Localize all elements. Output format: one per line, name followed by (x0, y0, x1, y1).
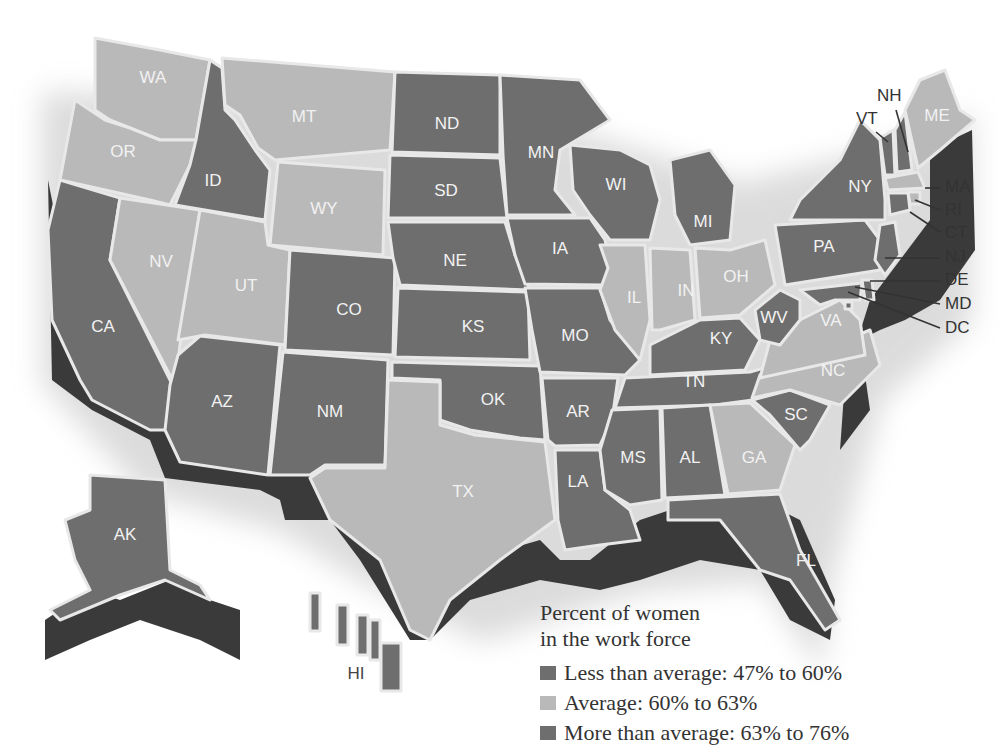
us-state-map: WA OR CA ID MT WY NV UT AZ CO NM ND SD N… (0, 0, 1002, 753)
svg-text:SD: SD (434, 181, 458, 200)
svg-text:KS: KS (462, 317, 485, 336)
svg-text:ND: ND (435, 114, 460, 133)
svg-text:RI: RI (945, 200, 962, 219)
svg-text:OR: OR (110, 142, 136, 161)
svg-text:MI: MI (694, 212, 713, 231)
svg-text:MD: MD (945, 294, 971, 313)
svg-text:IL: IL (627, 288, 641, 307)
svg-text:WA: WA (140, 68, 167, 87)
svg-text:NJ: NJ (945, 247, 966, 266)
svg-text:CA: CA (91, 317, 115, 336)
svg-text:CO: CO (336, 300, 362, 319)
svg-text:MO: MO (561, 326, 588, 345)
svg-text:LA: LA (568, 472, 589, 491)
svg-text:VT: VT (856, 109, 878, 128)
svg-text:DC: DC (945, 318, 970, 337)
legend-item-less-than-average: Less than average: 47% to 60% (540, 658, 849, 688)
svg-text:IN: IN (678, 281, 695, 300)
svg-text:NH: NH (877, 86, 902, 105)
state-CT[interactable] (888, 193, 910, 215)
svg-text:VA: VA (820, 311, 842, 330)
svg-text:NM: NM (317, 402, 343, 421)
svg-text:OK: OK (481, 390, 506, 409)
svg-text:MT: MT (292, 107, 317, 126)
legend-swatch-icon (540, 726, 556, 740)
svg-text:OH: OH (723, 267, 749, 286)
svg-text:AZ: AZ (211, 392, 233, 411)
svg-text:WV: WV (760, 308, 788, 327)
svg-text:AL: AL (680, 448, 701, 467)
svg-text:NE: NE (443, 251, 467, 270)
state-DC[interactable] (845, 302, 852, 309)
svg-text:HI: HI (348, 664, 365, 683)
svg-text:WY: WY (310, 199, 337, 218)
svg-text:AR: AR (566, 402, 590, 421)
map-legend: Percent of women in the work force Less … (540, 600, 849, 748)
svg-text:MS: MS (620, 448, 646, 467)
svg-text:MN: MN (528, 143, 554, 162)
legend-title-line1: Percent of women (540, 600, 849, 626)
svg-text:PA: PA (813, 237, 835, 256)
svg-text:SC: SC (784, 405, 808, 424)
svg-text:CT: CT (945, 223, 968, 242)
svg-text:KY: KY (710, 329, 733, 348)
svg-text:NV: NV (149, 252, 173, 271)
legend-swatch-icon (540, 696, 556, 710)
svg-text:MA: MA (945, 177, 971, 196)
legend-swatch-icon (540, 666, 556, 680)
svg-text:NY: NY (848, 177, 872, 196)
svg-text:UT: UT (235, 276, 258, 295)
svg-text:GA: GA (742, 448, 767, 467)
legend-item-more-than-average: More than average: 63% to 76% (540, 718, 849, 748)
svg-text:NC: NC (821, 361, 846, 380)
svg-text:ME: ME (924, 106, 950, 125)
svg-text:ID: ID (205, 171, 222, 190)
legend-item-average: Average: 60% to 63% (540, 688, 849, 718)
svg-text:AK: AK (114, 525, 137, 544)
svg-text:TX: TX (452, 482, 474, 501)
svg-text:TN: TN (683, 372, 706, 391)
svg-text:FL: FL (796, 551, 816, 570)
svg-text:DE: DE (945, 270, 969, 289)
legend-title-line2: in the work force (540, 626, 849, 652)
svg-text:IA: IA (552, 239, 569, 258)
svg-text:WI: WI (606, 175, 627, 194)
